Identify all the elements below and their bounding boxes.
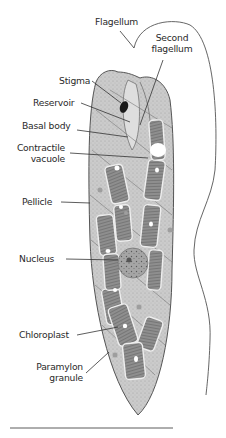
label-nucleus: Nucleus — [19, 253, 54, 264]
label-reservoir: Reservoir — [33, 97, 74, 108]
nucleus-shape — [118, 248, 148, 278]
label-second-flagellum: Second flagellum — [147, 32, 197, 54]
label-chloroplast: Chloroplast — [19, 329, 69, 340]
label-second-flagellum-line2: flagellum — [147, 43, 197, 54]
label-stigma: Stigma — [59, 75, 90, 86]
label-second-flagellum-line1: Second — [147, 32, 197, 43]
label-flagellum: Flagellum — [95, 16, 138, 27]
label-paramylon-granule-line2: granule — [25, 372, 83, 383]
label-contractile-vacuole: Contractile vacuole — [10, 142, 65, 164]
label-paramylon-granule-line1: Paramylon — [25, 361, 83, 372]
label-paramylon-granule: Paramylon granule — [25, 361, 83, 383]
label-contractile-vacuole-line2: vacuole — [10, 153, 65, 164]
contractile-vacuole-shape — [150, 143, 166, 157]
label-basal-body: Basal body — [22, 120, 71, 131]
label-pellicle: Pellicle — [22, 196, 52, 207]
label-contractile-vacuole-line1: Contractile — [10, 142, 65, 153]
